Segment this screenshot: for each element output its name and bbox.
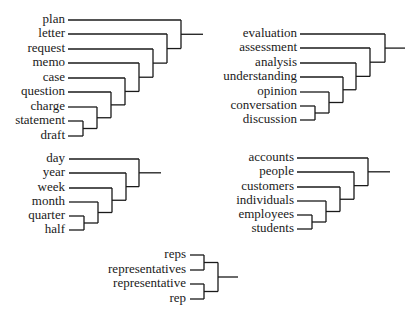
leaf-label: assessment <box>239 40 297 54</box>
leaf-label: employees <box>238 207 294 221</box>
leaf-label: memo <box>33 55 66 69</box>
leaf-label: evaluation <box>243 26 297 40</box>
leaf-label: year <box>43 165 65 179</box>
leaf-label: rep <box>169 291 186 305</box>
leaf-label: month <box>32 194 65 208</box>
leaf-label: question <box>21 84 65 98</box>
leaf-label: request <box>27 41 65 55</box>
leaf-label: understanding <box>223 69 297 83</box>
leaf-label: conversation <box>231 98 297 112</box>
leaf-label: accounts <box>249 150 294 164</box>
leaf-label: week <box>38 180 65 194</box>
leaf-label: discussion <box>243 112 297 126</box>
leaf-label: case <box>43 70 65 84</box>
leaf-label: representatives <box>108 262 186 276</box>
leaf-label: quarter <box>28 208 65 222</box>
leaf-label: people <box>259 164 294 178</box>
leaf-label: analysis <box>255 55 297 69</box>
leaf-label: draft <box>40 128 65 142</box>
leaf-label: letter <box>38 26 65 40</box>
leaf-label: students <box>251 221 294 235</box>
leaf-label: charge <box>31 99 65 113</box>
leaf-label: representative <box>113 276 186 290</box>
leaf-label: opinion <box>257 84 297 98</box>
leaf-label: half <box>45 222 65 236</box>
leaf-label: reps <box>164 247 186 261</box>
leaf-label: individuals <box>236 193 294 207</box>
leaf-label: day <box>46 151 65 165</box>
leaf-label: statement <box>15 113 65 127</box>
leaf-label: plan <box>43 12 65 26</box>
leaf-label: customers <box>241 179 294 193</box>
